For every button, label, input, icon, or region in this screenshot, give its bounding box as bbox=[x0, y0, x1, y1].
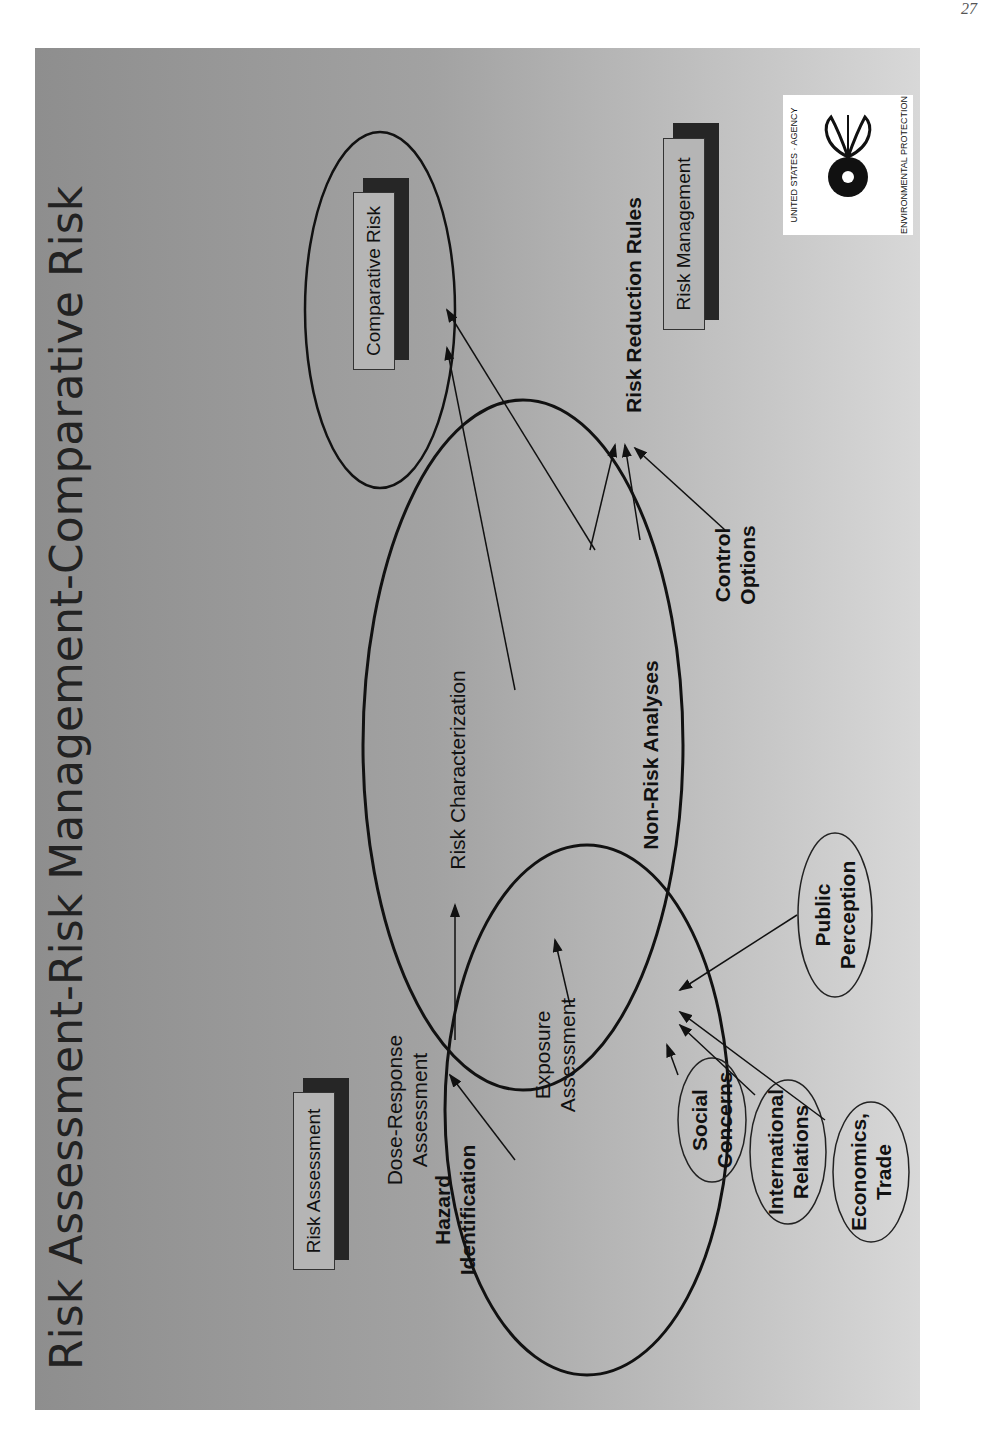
comparative-risk-label: Comparative Risk bbox=[353, 192, 395, 370]
svg-text:UNITED STATES · AGENCY: UNITED STATES · AGENCY bbox=[789, 107, 799, 222]
epa-logo: UNITED STATES · AGENCY ENVIRONMENTAL PRO… bbox=[783, 95, 913, 235]
svg-text:ENVIRONMENTAL PROTECTION: ENVIRONMENTAL PROTECTION bbox=[899, 96, 909, 234]
risk-reduction-rules: Risk Reduction Rules bbox=[621, 197, 646, 413]
comparative-risk-box: Comparative Risk bbox=[353, 180, 401, 370]
non-risk-analyses: Non-Risk Analyses bbox=[638, 660, 663, 849]
epa-seal-icon: UNITED STATES · AGENCY ENVIRONMENTAL PRO… bbox=[783, 95, 913, 235]
social-concerns: SocialConcerns bbox=[687, 1072, 737, 1169]
economics-trade: Economics,Trade bbox=[846, 1113, 896, 1231]
risk-management-box: Risk Management bbox=[663, 125, 711, 330]
risk-assessment-label: Risk Assessment bbox=[293, 1092, 335, 1270]
slide-canvas: Risk Assessment-Risk Management-Comparat… bbox=[35, 48, 920, 1410]
international-relations: InternationalRelations bbox=[763, 1089, 813, 1215]
page-number: 27 bbox=[961, 0, 977, 18]
risk-management-ellipse bbox=[363, 400, 683, 1090]
dose-response-assessment: Dose-ResponseAssessment bbox=[382, 1035, 432, 1186]
risk-assessment-box: Risk Assessment bbox=[293, 1080, 341, 1270]
slide: Risk Assessment-Risk Management-Comparat… bbox=[35, 48, 920, 1410]
risk-management-label: Risk Management bbox=[663, 138, 705, 330]
risk-characterization: Risk Characterization bbox=[445, 670, 470, 870]
exposure-assessment: ExposureAssessment bbox=[530, 998, 580, 1112]
control-options: ControlOptions bbox=[710, 525, 760, 604]
public-perception: PublicPerception bbox=[810, 861, 860, 970]
hazard-identification: HazardIdentification bbox=[430, 1145, 480, 1276]
